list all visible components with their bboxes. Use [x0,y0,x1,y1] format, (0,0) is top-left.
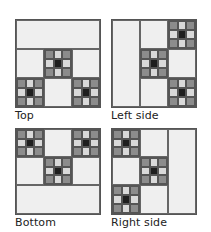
nine-patch-block [140,157,168,185]
plain-block [16,49,44,78]
plain-block [140,20,168,49]
nine-patch-block [44,49,72,78]
nine-patch-block [112,129,140,157]
quilt-layout-left-side [111,19,197,108]
plain-block [112,157,140,185]
quilt-layout-right-side [111,128,197,215]
panel-bottom: Bottom [15,128,101,229]
plain-block [72,157,100,185]
plain-block [72,49,100,78]
plain-strip [112,20,140,107]
panel-label: Top [15,109,101,122]
panel-label: Left side [111,109,197,122]
panel-right-side: Right side [111,128,197,229]
panel-top: Top [15,19,101,122]
nine-patch-block [168,78,196,107]
plain-block [16,157,44,185]
nine-patch-block [140,49,168,78]
plain-block [140,78,168,107]
plain-block [140,185,168,214]
plain-block [44,78,72,107]
plain-strip [16,185,100,214]
nine-patch-block [16,78,44,107]
nine-patch-block [72,129,100,157]
plain-block [168,49,196,78]
plain-block [140,129,168,157]
panel-label: Bottom [15,216,101,229]
nine-patch-block [112,185,140,214]
plain-strip [168,129,196,214]
plain-strip [16,20,100,49]
nine-patch-block [168,20,196,49]
panel-label: Right side [111,216,197,229]
nine-patch-block [16,129,44,157]
quilt-layout-bottom [15,128,101,215]
plain-block [44,129,72,157]
panel-left-side: Left side [111,19,197,122]
nine-patch-block [44,157,72,185]
nine-patch-block [72,78,100,107]
quilt-layout-top [15,19,101,108]
